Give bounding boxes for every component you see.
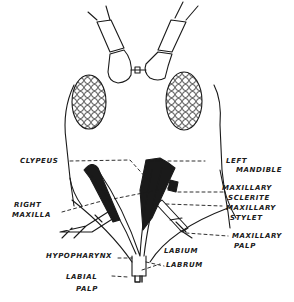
label-hypopharynx: HYPOPHARYNX (46, 252, 112, 260)
label-clypeus: CLYPEUS (20, 157, 58, 165)
mouthparts-diagram: CLYPEUS RIGHT MAXILLA LEFT MANDIBLE MAXI… (0, 0, 294, 302)
label-maxillary-palp-line1: MAXILLARY (232, 232, 282, 240)
label-labrum: LABRUM (166, 261, 203, 269)
left-maxillary-palp (156, 200, 192, 238)
label-labial-palp-line2: PALP (76, 285, 98, 293)
label-maxillary-palp-line2: PALP (234, 242, 256, 250)
left-compound-eye (72, 75, 106, 129)
label-left-mandible-line2: MANDIBLE (236, 166, 282, 174)
left-antenna (88, 6, 131, 83)
label-maxillary-stylet-line2: STYLET (230, 214, 263, 222)
label-right-maxilla-line1: RIGHT (14, 201, 41, 209)
label-labial-palp-line1: LABIAL (66, 273, 97, 281)
label-maxillary-sclerite-line2: SCLERITE (228, 194, 270, 202)
label-right-maxilla-line2: MAXILLA (12, 211, 51, 219)
head-drawing (0, 0, 294, 302)
right-compound-eye (166, 72, 202, 130)
label-labium: LABIUM (164, 247, 198, 255)
right-mandible (84, 164, 120, 222)
label-maxillary-stylet-line1: MAXILLARY (226, 204, 276, 212)
label-left-mandible-line1: LEFT (226, 157, 247, 165)
right-maxillary-palp (60, 212, 114, 238)
label-maxillary-sclerite-line1: MAXILLARY (222, 184, 272, 192)
right-antenna (145, 2, 198, 80)
